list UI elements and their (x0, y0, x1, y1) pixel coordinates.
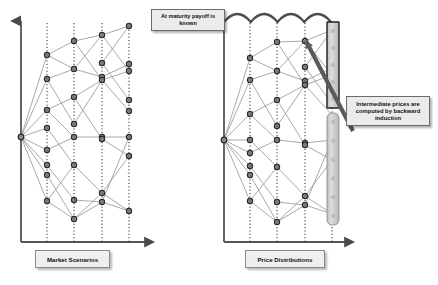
scenario-node-core (304, 66, 306, 68)
bar-node (331, 63, 334, 66)
bar-node (331, 80, 334, 83)
path-edge (224, 140, 250, 166)
scenario-node-core (46, 109, 48, 111)
path-edge (277, 41, 305, 42)
path-edge (47, 201, 74, 219)
bar-node (331, 29, 334, 32)
bar-node (331, 158, 334, 161)
path-edge (74, 41, 102, 80)
origin-node (221, 137, 227, 143)
path-edge (250, 114, 277, 140)
scenario-node-core (304, 144, 306, 146)
path-edge (74, 202, 102, 219)
scenario-node-core (73, 68, 75, 70)
scenario-node-core (276, 221, 278, 223)
scenario-node-core (249, 152, 251, 154)
scenario-node-core (276, 139, 278, 141)
scenario-node-core (276, 166, 278, 168)
path-edge (102, 26, 129, 63)
scenario-node-core (128, 210, 130, 212)
price-distribution-bar-1 (327, 113, 339, 225)
scenario-node-core (73, 123, 75, 125)
callout-backward-induction: Intermediate prices are computed by back… (346, 96, 430, 126)
scenario-node-core (101, 79, 103, 81)
path-edge (21, 137, 47, 165)
path-edge (277, 85, 305, 126)
path-edge (250, 80, 277, 126)
left-panel-market-scenarios (18, 21, 146, 242)
bar-node (331, 139, 334, 142)
diagram-canvas (0, 0, 438, 285)
path-edge (250, 140, 277, 167)
path-edge (277, 42, 305, 85)
scenario-node-core (46, 78, 48, 80)
scenario-node-core (73, 96, 75, 98)
scenario-node-core (46, 127, 48, 129)
scenario-node-core (128, 155, 130, 157)
path-edge (102, 64, 129, 77)
path-edge (277, 205, 305, 222)
path-edge (224, 58, 250, 140)
path-edge (277, 140, 305, 143)
path-edge (102, 26, 129, 35)
path-edge (74, 80, 102, 97)
scenario-node-core (46, 200, 48, 202)
path-edge (277, 167, 305, 196)
path-edge (102, 63, 129, 100)
scenario-node-core (46, 164, 48, 166)
scenario-node-core (304, 84, 306, 86)
path-edge (102, 193, 129, 211)
callout-maturity-payoff: At maturity payoff is known (151, 9, 225, 31)
path-edge (21, 79, 47, 137)
scenario-node-core (101, 201, 103, 203)
path-edge (102, 156, 129, 193)
scenario-node-core (128, 110, 130, 112)
scenario-node-core (249, 139, 251, 141)
path-edge (224, 80, 250, 140)
path-edge (102, 80, 129, 111)
path-edge (21, 55, 47, 137)
figure-root: At maturity payoff is known Intermediate… (0, 0, 438, 285)
path-edge (277, 85, 305, 100)
scenario-node-core (304, 204, 306, 206)
scenario-node-core (101, 192, 103, 194)
path-edge (47, 175, 74, 219)
bar-node (331, 46, 334, 49)
bar-node (331, 177, 334, 180)
scenario-node-core (73, 40, 75, 42)
scenario-node-core (276, 70, 278, 72)
scenario-node-core (101, 62, 103, 64)
scenario-node-core (249, 57, 251, 59)
path-edge (102, 137, 129, 202)
path-edge (277, 202, 305, 205)
scenario-node-core (101, 34, 103, 36)
path-edge (47, 41, 74, 55)
path-edge (21, 137, 47, 150)
scenario-node-core (276, 41, 278, 43)
scenario-node-core (101, 138, 103, 140)
bar-node (331, 120, 334, 123)
right-panel-price-distributions (221, 14, 353, 242)
path-edge (102, 202, 129, 211)
path-edge (250, 58, 277, 71)
scalloped-payoff-arc (224, 14, 331, 22)
path-edge (47, 79, 74, 124)
scenario-node-core (128, 70, 130, 72)
path-edge (47, 137, 74, 150)
scenario-node-core (128, 25, 130, 27)
path-edge (250, 42, 277, 58)
path-edge (250, 140, 277, 153)
scenario-node-core (249, 79, 251, 81)
scenario-node-core (73, 164, 75, 166)
scenario-node-core (249, 113, 251, 115)
path-edge (250, 71, 277, 80)
scenario-node-core (46, 54, 48, 56)
path-edge (47, 69, 74, 79)
path-edge (277, 71, 305, 81)
axis-label-price-distributions: Price Distributions (245, 250, 325, 268)
scenario-node-core (276, 201, 278, 203)
scenario-node-core (304, 195, 306, 197)
bar-node (331, 214, 334, 217)
scenario-node-core (73, 218, 75, 220)
scenario-node-core (73, 199, 75, 201)
